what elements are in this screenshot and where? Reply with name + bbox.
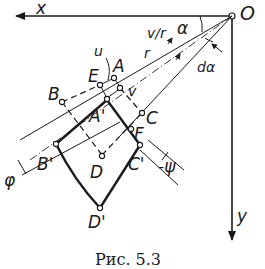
y-axis-label: y <box>237 208 247 225</box>
point-d-label: D <box>90 164 103 181</box>
u-curve <box>106 58 109 80</box>
point-b-label: B <box>48 86 60 103</box>
point-a-label: A <box>113 58 125 75</box>
d-alpha-arc <box>205 38 213 42</box>
u-label: u <box>94 44 103 58</box>
alpha-arc <box>200 16 202 32</box>
r-label: r <box>144 46 150 60</box>
point-f-label: F <box>134 126 144 143</box>
point-b-prime-label: B' <box>37 156 53 173</box>
d-alpha-label: dα <box>197 60 215 74</box>
point-d-prime-label: D' <box>88 214 106 231</box>
alpha-label: α <box>177 20 188 37</box>
d-alpha-arrow <box>212 44 222 52</box>
point-c-prime-label: C' <box>128 156 145 173</box>
radial-line-upper <box>20 16 232 140</box>
figure-caption: Рис. 5.3 <box>95 250 161 269</box>
phi-label: φ <box>4 172 15 189</box>
x-axis-label: x <box>36 0 46 17</box>
phi-arrow <box>18 160 26 174</box>
point-e-label: E <box>88 68 99 85</box>
point-a-prime-label: A' <box>89 108 105 125</box>
v-label: v <box>128 84 136 98</box>
psi-label: -ψ <box>158 158 175 175</box>
v-over-r-label: v/r <box>147 26 166 40</box>
point-c-label: C <box>146 110 158 127</box>
vr-arrow-1 <box>168 38 172 44</box>
origin-label: O <box>240 4 255 23</box>
